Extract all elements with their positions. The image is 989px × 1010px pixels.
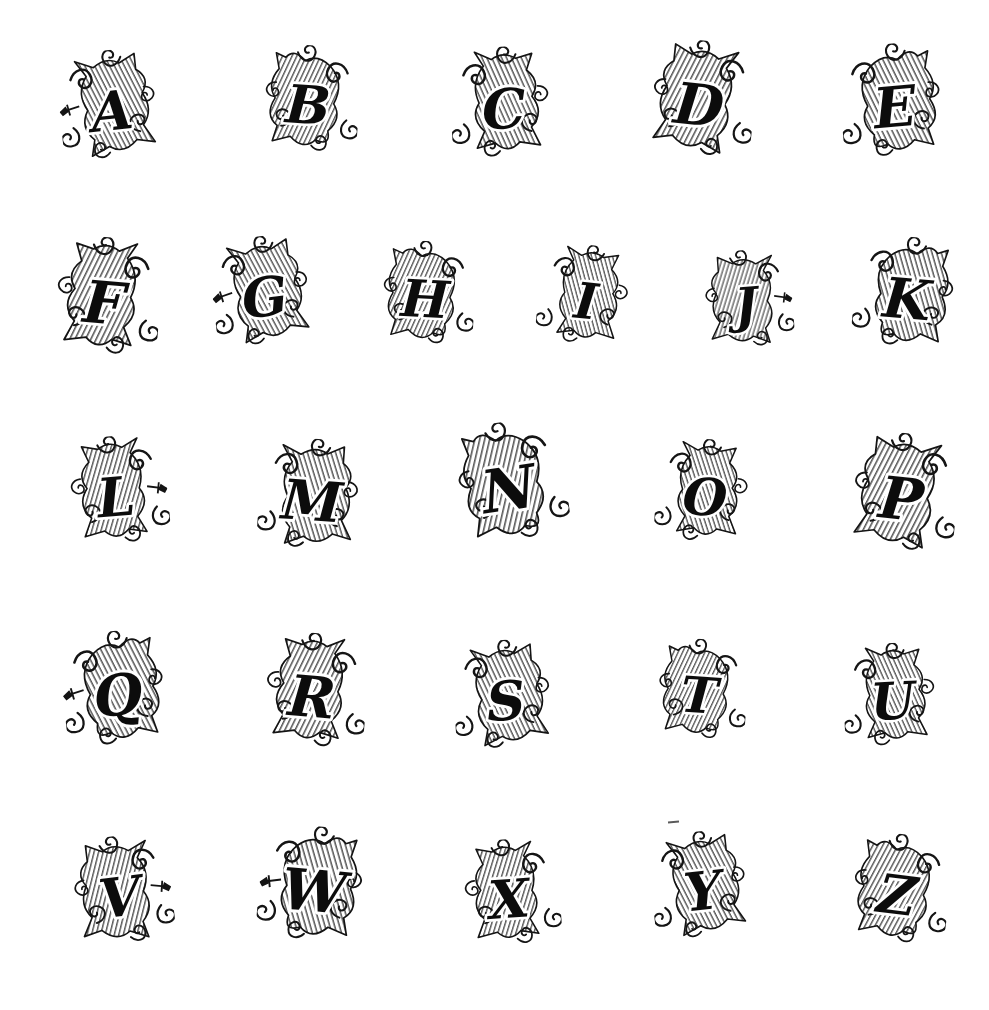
letter-glyph: M [278,466,347,535]
letter-row-4: QRSTU [0,632,989,756]
letter-glyph: Q [90,660,146,731]
letter-glyph: C [480,75,527,142]
ornament-engraving: K [849,232,966,367]
initial-tile-q: Q [57,626,179,767]
letter-glyph: X [483,866,533,931]
dagger-icon [260,875,281,888]
dagger-icon [60,103,80,116]
initial-tile-d: D [638,35,761,177]
dagger-icon [63,687,84,701]
initial-tile-f: F [42,232,166,375]
ornament-engraving: Y [646,826,760,958]
letter-glyph: P [874,462,929,536]
initial-tile-l: L [59,432,173,565]
letter-glyph: U [869,670,920,732]
letter-glyph: W [279,854,354,927]
letter-row-5: VWXYZ [0,822,989,946]
letter-glyph: N [475,450,543,528]
ornament-engraving: P [838,428,964,573]
initial-tile-o: O [652,437,757,560]
ornament-engraving: R [252,628,372,767]
ornament-engraving: M [255,435,370,569]
initial-tile-p: P [838,428,964,573]
ornament-engraving: D [638,35,761,177]
ornament-engraving: W [254,822,375,963]
letter-glyph: H [397,268,452,331]
ornament-engraving: U [841,641,946,764]
initial-tile-r: R [252,628,372,767]
ornament-engraving: S [449,637,561,768]
initial-tile-g: G [205,230,323,366]
letter-row-1: ABCDE [0,44,989,168]
ornament-engraving: B [253,42,363,170]
initial-tile-b: B [253,42,363,170]
letter-row-2: FGHIJK [0,238,989,362]
dagger-icon [213,290,233,303]
ornament-engraving: H [373,239,478,362]
initial-tile-j: J [696,247,797,365]
ornament-engraving: I [532,240,639,363]
letter-glyph: S [484,668,527,735]
ornament-engraving: O [652,437,757,560]
ornament-engraving: G [205,230,323,366]
letter-glyph: L [92,463,137,530]
dagger-icon [150,880,170,893]
initial-tile-y: Y [646,826,760,958]
letter-glyph: R [284,662,339,732]
initial-tile-n: N [442,415,574,566]
ornament-engraving: C [447,44,560,176]
initial-tile-c: C [447,44,560,176]
initial-tile-z: Z [838,828,956,964]
initial-tile-t: T [648,636,751,756]
ornament-engraving: V [61,830,179,966]
letter-glyph: G [238,262,292,331]
letter-glyph: B [281,72,332,137]
initial-tile-h: H [373,239,478,362]
initial-tile-e: E [836,39,955,177]
initial-tile-w: W [254,822,375,963]
letter-glyph: E [869,72,921,142]
letter-glyph: O [681,466,729,528]
ornament-engraving: Z [838,828,956,964]
dagger-icon [774,292,792,303]
ornament-engraving: X [453,836,563,964]
dagger-icon [147,482,167,495]
ornament-engraving: J [696,247,797,365]
letter-glyph: K [878,264,935,333]
letter-row-3: LMNOP [0,432,989,556]
initial-tile-u: U [841,641,946,764]
initial-tile-a: A [54,45,170,179]
initial-tile-i: I [532,240,639,363]
initial-tile-x: X [453,836,563,964]
ornament-engraving: A [54,45,170,179]
initial-tile-v: V [61,830,179,966]
ornament-engraving: N [442,415,574,566]
ornament-engraving: E [836,39,955,177]
ornament-engraving: Q [57,626,179,767]
letter-glyph: D [669,68,728,140]
ornament-engraving: T [648,636,751,756]
initial-tile-s: S [449,637,561,768]
initial-tile-m: M [255,435,370,569]
ornament-engraving: L [59,432,173,565]
initial-tile-k: K [849,232,966,367]
ornament-engraving: F [42,232,166,375]
